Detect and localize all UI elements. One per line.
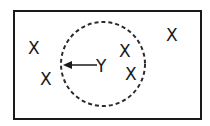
diagram-canvas: Y X X X X X [0,0,210,126]
point-x-3: X [119,41,131,61]
point-x-1: X [28,38,40,58]
point-x-2: X [40,69,52,89]
point-x-5: X [166,25,178,45]
point-x-4: X [125,64,137,84]
center-label-y: Y [95,56,107,76]
arrow-head-icon [63,61,72,69]
